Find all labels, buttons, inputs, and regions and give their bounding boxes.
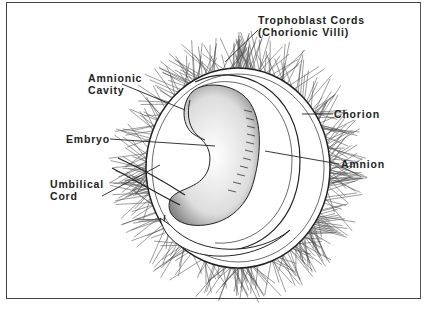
label-amnion: Amnion: [341, 158, 385, 170]
label-trophoblast-cords: Trophoblast Cords (Chorionic Villi): [258, 14, 365, 38]
label-umbilical-cord: Umbilical Cord: [50, 178, 104, 202]
label-line: (Chorionic Villi): [258, 26, 365, 38]
label-embryo: Embryo: [66, 133, 110, 145]
label-amnionic-cavity: Amnionic Cavity: [88, 72, 142, 96]
label-line: Trophoblast Cords: [258, 14, 365, 26]
label-line: Umbilical: [50, 178, 104, 190]
label-chorion: Chorion: [334, 108, 380, 120]
label-line: Cavity: [88, 84, 142, 96]
embryo-illustration: [0, 0, 426, 309]
label-line: Cord: [50, 190, 104, 202]
label-line: Amnionic: [88, 72, 142, 84]
